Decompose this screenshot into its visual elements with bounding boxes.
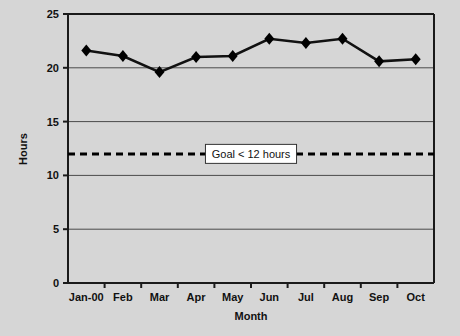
x-tick-label-may: May (222, 291, 244, 303)
y-tick-label-10: 10 (47, 169, 59, 181)
line-chart: 0510152025 Jan-00FebMarAprMayJunJulAugSe… (0, 0, 460, 336)
x-tick-label-jun: Jun (260, 291, 280, 303)
x-tick-label-mar: Mar (150, 291, 170, 303)
y-tick-label-20: 20 (47, 62, 59, 74)
y-tick-label-25: 25 (47, 8, 59, 20)
x-tick-label-aug: Aug (332, 291, 353, 303)
y-tick-label-15: 15 (47, 116, 59, 128)
y-axis-title: Hours (17, 133, 29, 165)
x-tick-label-jul: Jul (298, 291, 314, 303)
goal-label-text: Goal < 12 hours (212, 148, 291, 160)
y-tick-label-0: 0 (53, 277, 59, 289)
chart-container: 0510152025 Jan-00FebMarAprMayJunJulAugSe… (0, 0, 460, 336)
x-tick-label-apr: Apr (187, 291, 207, 303)
y-tick-label-5: 5 (53, 223, 59, 235)
x-tick-label-jan-00: Jan-00 (69, 291, 104, 303)
x-tick-label-sep: Sep (369, 291, 389, 303)
x-tick-label-feb: Feb (113, 291, 133, 303)
x-axis-title: Month (235, 310, 268, 322)
x-tick-label-oct: Oct (407, 291, 426, 303)
goal-label: Goal < 12 hours (205, 144, 296, 163)
